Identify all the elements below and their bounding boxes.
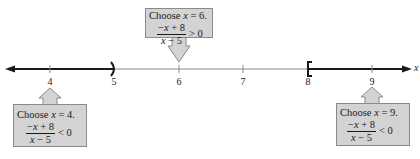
fraction: −x + 8 x − 5 (157, 23, 186, 47)
tick-label-7: 7 (233, 76, 253, 87)
callout-inequality: −x + 8 x − 5 < 0 (337, 120, 409, 144)
callout-arrow-up-icon (361, 87, 383, 104)
callout-test-6: Choose x = 6. −x + 8 x − 5 > 0 (145, 8, 213, 38)
fraction: −x + 8 x − 5 (26, 122, 55, 146)
tick-label-4: 4 (40, 76, 60, 87)
tick-label-8: 8 (298, 76, 318, 87)
relation: < 0 (58, 128, 72, 139)
arrow-right-icon (402, 66, 412, 73)
callout-arrow-up-icon (39, 88, 61, 105)
callout-choose-line: Choose x = 4. (14, 105, 86, 121)
callout-inequality: −x + 8 x − 5 > 0 (146, 23, 212, 47)
callout-choose-line: Choose x = 6. (146, 9, 212, 22)
relation: < 0 (379, 126, 393, 137)
fraction: −x + 8 x − 5 (347, 120, 376, 144)
callout-choose-line: Choose x = 9. (337, 104, 409, 119)
tick-label-6: 6 (169, 76, 189, 87)
callout-test-9: Choose x = 9. −x + 8 x − 5 < 0 (336, 103, 410, 146)
relation: > 0 (189, 29, 203, 40)
arrow-left-icon (5, 66, 15, 73)
callout-test-4: Choose x = 4. −x + 8 x − 5 < 0 (13, 104, 87, 147)
tick-label-9: 9 (362, 76, 382, 87)
axis-variable-label: x (414, 62, 418, 73)
tick-label-5: 5 (104, 76, 124, 87)
callout-inequality: −x + 8 x − 5 < 0 (14, 122, 86, 146)
